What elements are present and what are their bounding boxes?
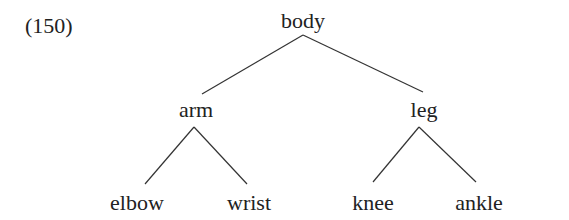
- example-number: (150): [25, 13, 73, 38]
- node-ankle: ankle: [455, 190, 503, 215]
- tree-diagram: (150) body arm leg elbow wrist knee ankl…: [0, 0, 569, 220]
- edge-arm-elbow: [145, 127, 194, 184]
- node-knee: knee: [352, 190, 394, 215]
- edge-body-leg: [303, 35, 423, 92]
- node-elbow: elbow: [110, 190, 164, 215]
- edge-leg-ankle: [419, 127, 476, 182]
- edge-body-arm: [202, 35, 303, 94]
- edge-leg-knee: [373, 127, 419, 182]
- node-arm: arm: [179, 97, 213, 122]
- node-leg: leg: [411, 97, 438, 122]
- node-body: body: [281, 8, 325, 33]
- node-wrist: wrist: [227, 190, 271, 215]
- edge-arm-wrist: [194, 127, 247, 184]
